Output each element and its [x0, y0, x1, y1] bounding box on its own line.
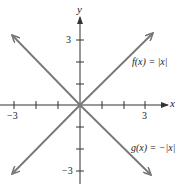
- x-tick-label-neg3: −3: [7, 111, 18, 121]
- x-axis-label: x: [170, 98, 175, 109]
- y-tick-label-neg3: −3: [62, 166, 73, 176]
- f-left-branch: [12, 35, 80, 105]
- f-right-branch: [80, 33, 153, 105]
- y-tick-label-3: 3: [66, 35, 71, 45]
- graph-canvas: [0, 0, 182, 192]
- g-right-branch: [80, 105, 151, 175]
- g-function-label: g(x) = −|x|: [131, 143, 176, 153]
- g-left-branch: [12, 105, 80, 174]
- x-tick-label-3: 3: [142, 111, 147, 121]
- f-function-label: f(x) = |x|: [132, 57, 168, 67]
- y-axis-label: y: [77, 4, 82, 15]
